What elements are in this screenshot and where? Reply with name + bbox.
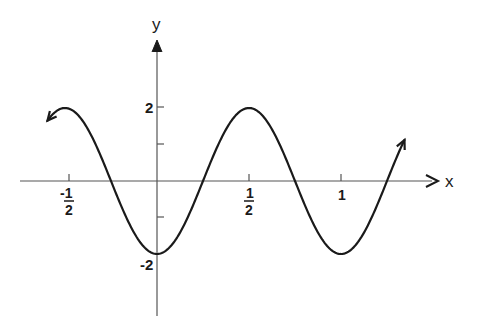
y-axis: y bbox=[152, 15, 162, 316]
x-tick-label-half-denominator: 2 bbox=[245, 202, 253, 218]
sinusoid-graph: x y 2 -2 -1 2 1 2 1 bbox=[0, 0, 478, 328]
x-tick-label-half-numerator: 1 bbox=[246, 185, 254, 201]
x-tick-label-1: 1 bbox=[338, 187, 346, 203]
y-tick-label-neg2: -2 bbox=[140, 256, 153, 273]
x-tick-label-neg-half-denominator: 2 bbox=[65, 202, 73, 218]
x-axis-label: x bbox=[445, 172, 454, 191]
x-tick-label-neg-half-numerator: -1 bbox=[60, 185, 73, 201]
y-axis-arrow-icon bbox=[152, 40, 162, 52]
y-tick-label-2: 2 bbox=[145, 99, 153, 116]
y-axis-label: y bbox=[152, 15, 161, 34]
